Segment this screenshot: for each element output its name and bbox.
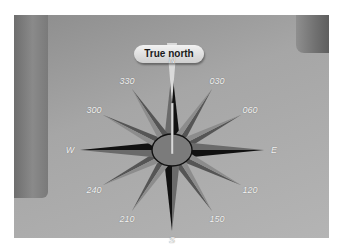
compass-label-060: 060 [242, 105, 257, 115]
compass-label-330: 330 [119, 76, 134, 86]
compass-label-300: 300 [87, 105, 102, 115]
compass-rose [0, 0, 340, 250]
compass-label-030: 030 [209, 76, 224, 86]
compass-label-150: 150 [209, 214, 224, 224]
compass-label-240: 240 [87, 185, 102, 195]
true-north-needle [171, 103, 173, 154]
compass-label-210: 210 [119, 214, 134, 224]
compass-label-s: S [169, 235, 175, 245]
compass-label-e: E [271, 145, 277, 155]
compass-label-n: N [169, 55, 176, 65]
compass-label-w: W [66, 145, 75, 155]
compass-label-120: 120 [242, 185, 257, 195]
